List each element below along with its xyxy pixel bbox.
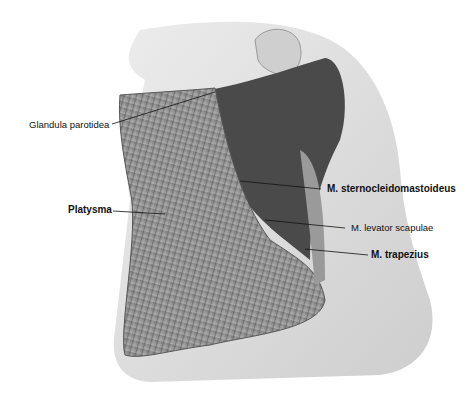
label-m-sternocleidomastoideus: M. sternocleidomastoideus [327,184,456,194]
label-platysma: Platysma [68,205,112,215]
neck-illustration [0,0,472,395]
label-m-trapezius: M. trapezius [371,250,429,260]
label-m-levator-scapulae: M. levator scapulae [351,223,433,233]
label-glandula-parotidea: Glandula parotidea [29,120,109,130]
anatomical-figure: Glandula parotidea Platysma M. sternocle… [0,0,472,395]
